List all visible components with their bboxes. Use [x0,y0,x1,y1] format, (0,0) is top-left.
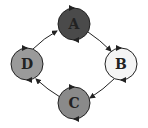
cycle-diagram: A B C D [0,0,148,128]
node-b-label: B [115,56,127,72]
node-a: A [58,8,90,40]
edge-a-to-b [88,32,111,51]
node-b: B [105,48,137,80]
node-c-label: C [68,95,79,111]
edge-d-to-a [33,31,57,49]
node-c: C [58,87,90,119]
edge-c-to-d [36,79,60,97]
node-a-label: A [68,16,81,32]
node-d: D [11,48,43,80]
edge-b-to-c [90,79,114,98]
node-d-label: D [21,56,33,72]
